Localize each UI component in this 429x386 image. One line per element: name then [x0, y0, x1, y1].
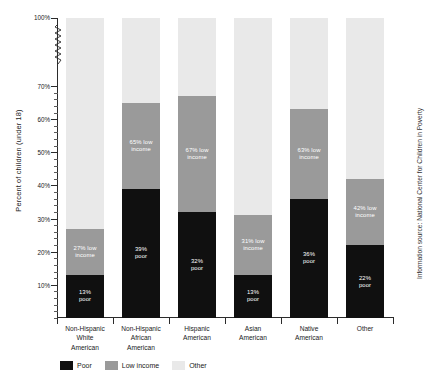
segment-low-income[interactable]: 63% low income [290, 109, 328, 198]
x-tick [393, 318, 394, 324]
y-tick-label: 30% [37, 215, 50, 222]
segment-low-income-label: 65% low income [129, 139, 154, 153]
legend-swatch-icon [105, 361, 118, 370]
legend-swatch-icon [60, 361, 73, 370]
bar-3[interactable]: 67% low income32% poor [178, 18, 216, 318]
legend-label: Other [189, 362, 207, 369]
bar-6[interactable]: 42% low income22% poor [346, 18, 384, 318]
segment-poor-label: 39% poor [134, 246, 148, 260]
segment-poor[interactable]: 32% poor [178, 212, 216, 318]
source-note-text: Information source: National Center for … [417, 107, 424, 278]
segment-low-income[interactable]: 27% low income [66, 229, 104, 275]
y-tick-label: 20% [37, 248, 50, 255]
legend-item-poor[interactable]: Poor [60, 361, 92, 370]
x-axis-label-1: Non-Hispanic White American [55, 324, 115, 352]
segment-low-income-label: 67% low income [185, 147, 210, 161]
segment-other[interactable] [346, 18, 384, 179]
segment-poor[interactable]: 22% poor [346, 245, 384, 318]
segment-other[interactable] [66, 18, 104, 229]
segment-other[interactable] [122, 18, 160, 103]
plot-area: 100%70%60%50%40%30%20%10% 27% low income… [57, 18, 394, 318]
segment-low-income-label: 63% low income [297, 147, 322, 161]
segment-low-income-label: 42% low income [353, 205, 378, 219]
bar-1[interactable]: 27% low income13% poor [66, 18, 104, 318]
x-axis-label-5: Native American [279, 324, 339, 343]
bar-2[interactable]: 65% low income39% poor [122, 18, 160, 318]
y-tick-label: 70% [37, 83, 50, 90]
y-tick-label: 40% [37, 182, 50, 189]
segment-low-income[interactable]: 67% low income [178, 96, 216, 212]
segment-poor-label: 22% poor [358, 275, 372, 289]
y-tick-label: 60% [37, 116, 50, 123]
segment-low-income-label: 27% low income [73, 245, 98, 259]
segment-poor[interactable]: 13% poor [66, 275, 104, 318]
segment-low-income[interactable]: 65% low income [122, 103, 160, 189]
segment-other[interactable] [234, 18, 272, 215]
segment-poor-label: 32% poor [190, 258, 204, 272]
segment-poor-label: 13% poor [246, 289, 260, 303]
segment-low-income-label: 31% low income [241, 238, 266, 252]
legend-label: Low income [122, 362, 159, 369]
y-tick-label: 50% [37, 149, 50, 156]
segment-low-income[interactable]: 42% low income [346, 179, 384, 245]
x-axis-label-6: Other [335, 324, 395, 333]
segment-other[interactable] [290, 18, 328, 109]
legend-label: Poor [77, 362, 92, 369]
x-axis-label-2: Non-Hispanic African American [111, 324, 171, 352]
segment-poor-label: 36% poor [302, 251, 316, 265]
bar-5[interactable]: 63% low income36% poor [290, 18, 328, 318]
x-axis-label-4: Asian American [223, 324, 283, 343]
legend-swatch-icon [172, 361, 185, 370]
x-axis-label-3: Hispanic American [167, 324, 227, 343]
segment-other[interactable] [178, 18, 216, 96]
y-tick-label: 10% [37, 281, 50, 288]
segment-poor-label: 13% poor [78, 289, 92, 303]
segment-poor[interactable]: 36% poor [290, 199, 328, 318]
x-axis-categories: Non-Hispanic White AmericanNon-Hispanic … [57, 318, 394, 360]
bars-group: 27% low income13% poor65% low income39% … [57, 18, 394, 318]
legend-item-other[interactable]: Other [172, 361, 207, 370]
y-tick-label: 100% [34, 14, 50, 21]
y-axis-title-label: Percent of children (under 18) [14, 109, 23, 211]
segment-poor[interactable]: 13% poor [234, 275, 272, 318]
legend: PoorLow incomeOther [60, 361, 207, 370]
segment-poor[interactable]: 39% poor [122, 189, 160, 318]
y-axis-title: Percent of children (under 18) [10, 0, 26, 320]
legend-item-low-income[interactable]: Low income [105, 361, 159, 370]
segment-low-income[interactable]: 31% low income [234, 215, 272, 275]
source-note: Information source: National Center for … [413, 0, 427, 386]
bar-4[interactable]: 31% low income13% poor [234, 18, 272, 318]
